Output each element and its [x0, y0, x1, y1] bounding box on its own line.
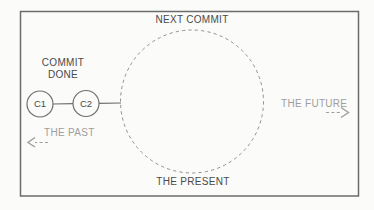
the-present-label: THE PRESENT: [123, 176, 263, 188]
diagram-canvas: NEXT COMMIT COMMIT DONE C1 C2 THE PAST T…: [0, 0, 374, 210]
the-future-label: THE FUTURE: [281, 98, 347, 110]
present-dashed-circle: [121, 30, 264, 173]
commit-node-c2-label: C2: [73, 99, 99, 109]
commit-done-label: COMMIT DONE: [33, 57, 93, 81]
commit-done-line1: COMMIT: [33, 57, 93, 69]
next-commit-label: NEXT COMMIT: [121, 14, 263, 26]
commit-node-c1-label: C1: [27, 99, 53, 109]
past-arrow-head-icon: [28, 138, 35, 148]
commit-done-line2: DONE: [33, 69, 93, 81]
the-past-label: THE PAST: [44, 127, 95, 139]
